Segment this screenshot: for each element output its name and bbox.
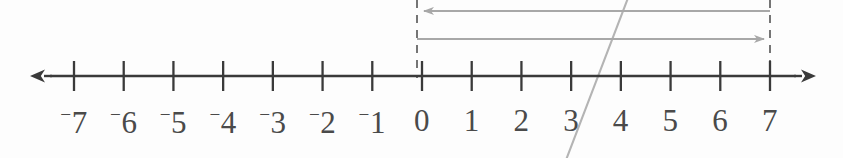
tick-label: 0 — [414, 105, 430, 136]
number-line-figure: Number line from negative seven to seven… — [0, 0, 843, 158]
tick-label: −1 — [359, 105, 386, 138]
tick-label: −5 — [160, 105, 187, 138]
tick-label: 2 — [513, 105, 529, 136]
tick-label: −4 — [209, 105, 236, 138]
negative-sign: − — [110, 104, 121, 125]
tick-label: 3 — [563, 105, 579, 136]
tick-label: −2 — [309, 105, 336, 138]
negative-sign: − — [209, 104, 220, 125]
negative-sign: − — [259, 104, 270, 125]
tick-label: 6 — [712, 105, 728, 136]
tick-label: 7 — [762, 105, 778, 136]
negative-sign: − — [160, 104, 171, 125]
tick-label: −6 — [110, 105, 137, 138]
tick-label: −3 — [259, 105, 286, 138]
tick-label: −7 — [60, 105, 87, 138]
negative-sign: − — [309, 104, 320, 125]
tick-label: 5 — [663, 105, 679, 136]
negative-sign: − — [359, 104, 370, 125]
tick-label: 4 — [613, 105, 629, 136]
negative-sign: − — [60, 104, 71, 125]
tick-label: 1 — [464, 105, 480, 136]
